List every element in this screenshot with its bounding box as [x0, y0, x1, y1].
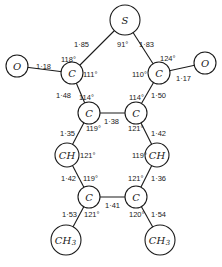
bond-angle: 111°	[83, 70, 97, 79]
bond-angle: 119°	[86, 124, 101, 133]
bond-length: 1·35	[60, 129, 75, 138]
atom-carbon-1: C	[61, 62, 83, 84]
atom-label: O	[13, 61, 21, 72]
bond-length: 1·48	[56, 91, 71, 100]
atom-label: C	[85, 108, 93, 119]
atom-carbon-6: C	[125, 186, 147, 208]
bond-length: 1·50	[151, 91, 166, 100]
bond-angle: 114°	[129, 93, 144, 102]
bond-length: 1·36	[151, 174, 166, 183]
atom-label: CH	[59, 150, 76, 161]
atom-label: S	[122, 15, 129, 26]
atom-label: C	[132, 108, 140, 119]
atom-methyl-right: CH 3	[145, 225, 175, 255]
atom-label: C	[132, 192, 140, 203]
bond-angle: 121°	[128, 124, 144, 133]
atom-label: C	[155, 68, 163, 79]
atom-carbon-4: C	[125, 102, 147, 124]
bond-angle: 124°	[160, 54, 176, 63]
bond-length: 1·85	[74, 40, 89, 49]
bond-length: 1·54	[151, 210, 166, 219]
bond-angle: 118°	[61, 55, 76, 64]
atom-subscript: 3	[166, 239, 171, 247]
bond-angle: 121°	[80, 151, 96, 160]
bond-length: 1·18	[36, 62, 51, 71]
bond-length: 1·83	[139, 40, 154, 49]
bond-length: 1·42	[61, 174, 76, 183]
atom-sulfur: S	[110, 5, 140, 35]
bond-length: 1·41	[105, 201, 120, 210]
atom-label: C	[85, 192, 93, 203]
atom-carbon-5: C	[78, 186, 100, 208]
bond-length: 1·17	[176, 74, 191, 83]
bond-angle: 91°	[117, 40, 128, 49]
molecule-diagram: S O C C O C C CH	[0, 0, 222, 267]
bond-angle: 114°	[79, 93, 94, 102]
atom-carbon-3: C	[78, 102, 100, 124]
bond-angle: 120°	[129, 210, 145, 219]
atom-subscript: 3	[72, 239, 77, 247]
atom-oxygen-left: O	[6, 55, 28, 77]
atom-label: C	[68, 68, 76, 79]
atom-oxygen-right: O	[194, 52, 216, 74]
atom-ch-left: CH	[55, 143, 79, 167]
atom-ch-right: CH	[145, 143, 169, 167]
atoms: S O C C O C C CH	[6, 5, 216, 255]
atom-label: O	[201, 58, 209, 69]
atom-label: CH	[149, 235, 166, 246]
atom-methyl-left: CH 3	[51, 225, 81, 255]
bond-angle: 121°	[84, 210, 100, 219]
bond-length: 1·53	[62, 210, 77, 219]
bond-length: 1·42	[151, 129, 166, 138]
bond-angle: 121°	[128, 174, 144, 183]
bond-length: 1·38	[104, 117, 119, 126]
bond-angle: 119°	[83, 174, 98, 183]
atom-label: CH	[55, 235, 72, 246]
atom-label: CH	[149, 150, 166, 161]
bond-angle: 119°	[132, 151, 147, 160]
atom-carbon-2: C	[148, 62, 170, 84]
bond-angle: 110°	[132, 70, 147, 79]
